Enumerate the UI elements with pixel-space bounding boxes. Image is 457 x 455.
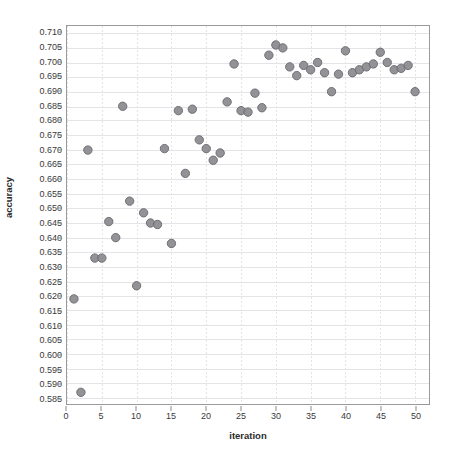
y-tick-label: 0.705 (4, 43, 62, 52)
data-point (286, 63, 294, 71)
y-tick-mark (57, 208, 62, 209)
x-tick-mark (416, 406, 417, 411)
x-tick-label: 20 (201, 412, 211, 421)
data-point (376, 48, 384, 56)
y-tick-mark (57, 76, 62, 77)
y-tick-mark (57, 369, 62, 370)
y-tick-label: 0.625 (4, 277, 62, 286)
x-tick-mark (136, 406, 137, 411)
y-tick-mark (57, 149, 62, 150)
y-tick-mark (57, 32, 62, 33)
y-tick-label: 0.670 (4, 145, 62, 154)
y-tick-mark (57, 384, 62, 385)
y-tick-mark (57, 252, 62, 253)
data-point (251, 89, 259, 97)
data-point (125, 197, 133, 205)
y-tick-mark (57, 193, 62, 194)
data-point (153, 220, 161, 228)
data-point (209, 156, 217, 164)
data-point (334, 70, 342, 78)
y-tick-label: 0.585 (4, 395, 62, 404)
data-point (293, 71, 301, 79)
y-tick-label: 0.690 (4, 87, 62, 96)
x-tick-label: 35 (306, 412, 316, 421)
y-tick-mark (57, 355, 62, 356)
data-point (139, 209, 147, 217)
y-tick-label: 0.695 (4, 72, 62, 81)
data-point (160, 144, 168, 152)
y-tick-mark (57, 91, 62, 92)
y-tick-label: 0.615 (4, 307, 62, 316)
data-point (383, 58, 391, 66)
y-tick-label: 0.600 (4, 351, 62, 360)
y-tick-label: 0.595 (4, 365, 62, 374)
y-tick-mark (57, 340, 62, 341)
x-tick-mark (346, 406, 347, 411)
data-point (119, 102, 127, 110)
y-tick-label: 0.630 (4, 263, 62, 272)
data-point (258, 104, 266, 112)
data-point (244, 108, 252, 116)
y-tick-label: 0.680 (4, 116, 62, 125)
data-point (230, 60, 238, 68)
y-tick-mark (57, 325, 62, 326)
data-point (195, 136, 203, 144)
x-tick-mark (206, 406, 207, 411)
y-tick-label: 0.685 (4, 101, 62, 110)
x-tick-label: 30 (271, 412, 281, 421)
data-point (313, 58, 321, 66)
y-tick-label: 0.640 (4, 233, 62, 242)
data-point (404, 61, 412, 69)
y-tick-label: 0.675 (4, 131, 62, 140)
x-tick-label: 45 (376, 412, 386, 421)
x-tick-mark (66, 406, 67, 411)
y-tick-mark (57, 47, 62, 48)
data-point (265, 51, 273, 59)
y-tick-mark (57, 399, 62, 400)
data-point (132, 282, 140, 290)
y-tick-mark (57, 135, 62, 136)
x-tick-label: 15 (166, 412, 176, 421)
y-tick-mark (57, 281, 62, 282)
data-point (320, 69, 328, 77)
y-tick-mark (57, 61, 62, 62)
x-tick-label: 40 (341, 412, 351, 421)
x-tick-label: 10 (131, 412, 141, 421)
data-point (216, 149, 224, 157)
x-tick-mark (171, 406, 172, 411)
data-point (411, 87, 419, 95)
data-point (341, 47, 349, 55)
x-axis: 05101520253035404550 (66, 412, 430, 426)
y-tick-mark (57, 179, 62, 180)
y-tick-label: 0.710 (4, 28, 62, 37)
data-point (77, 388, 85, 396)
x-tick-mark (241, 406, 242, 411)
y-tick-label: 0.605 (4, 336, 62, 345)
data-point (306, 66, 314, 74)
data-point (105, 217, 113, 225)
scatter-points (67, 26, 429, 404)
data-point (369, 60, 377, 68)
y-tick-mark (57, 164, 62, 165)
y-tick-mark (57, 296, 62, 297)
data-point (70, 295, 78, 303)
data-point (181, 169, 189, 177)
data-point (112, 233, 120, 241)
x-axis-title: iteration (66, 430, 430, 441)
y-tick-mark (57, 237, 62, 238)
x-tick-mark (381, 406, 382, 411)
x-tick-mark (101, 406, 102, 411)
x-tick-label: 25 (236, 412, 246, 421)
data-point (223, 98, 231, 106)
x-tick-mark (311, 406, 312, 411)
data-point (327, 87, 335, 95)
data-point (279, 44, 287, 52)
y-tick-mark (57, 105, 62, 106)
plot-area (66, 25, 430, 405)
data-point (167, 239, 175, 247)
x-tick-label: 5 (98, 412, 103, 421)
data-point (84, 146, 92, 154)
y-tick-label: 0.620 (4, 292, 62, 301)
y-tick-label: 0.635 (4, 248, 62, 257)
y-tick-mark (57, 311, 62, 312)
